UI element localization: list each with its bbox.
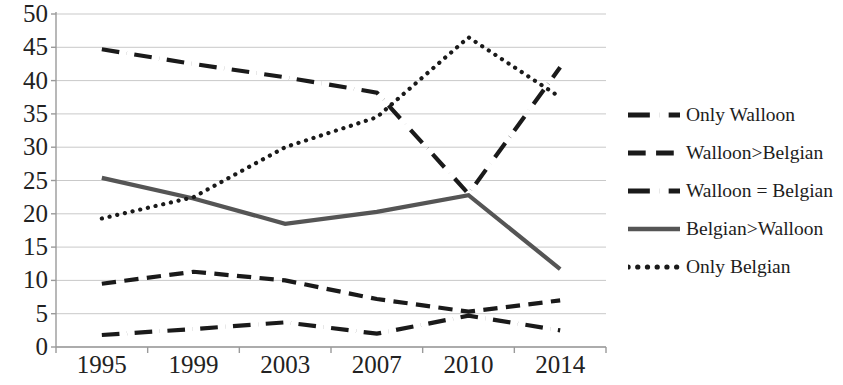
- legend-item[interactable]: Only Walloon: [628, 96, 843, 134]
- legend-line-sample-icon: [628, 184, 680, 198]
- legend-line-sample-icon: [628, 146, 680, 160]
- gridlines: [56, 14, 606, 347]
- x-axis-tick-label: 1995: [52, 352, 152, 377]
- chart-legend: Only WalloonWalloon>BelgianWalloon = Bel…: [628, 96, 843, 286]
- legend-item-label: Only Belgian: [686, 257, 791, 277]
- legend-line-sample-icon: [628, 260, 680, 274]
- legend-item[interactable]: Walloon = Belgian: [628, 172, 843, 210]
- axis-lines: [51, 12, 606, 347]
- legend-item-label: Belgian>Walloon: [686, 219, 823, 239]
- x-axis-tick-label: 2010: [419, 352, 519, 377]
- x-axis-tick-label: 2003: [235, 352, 335, 377]
- series-line-1: [102, 272, 560, 312]
- legend-item[interactable]: Only Belgian: [628, 248, 843, 286]
- line-chart: 50454035302520151050 1995199920032007201…: [0, 0, 843, 385]
- legend-line-sample-icon: [628, 222, 680, 236]
- legend-item-label: Walloon>Belgian: [686, 143, 823, 163]
- legend-line-sample-icon: [628, 108, 680, 122]
- x-axis-tick-label: 2014: [510, 352, 610, 377]
- series-lines: [102, 37, 560, 335]
- series-line-0: [102, 49, 560, 194]
- legend-item[interactable]: Walloon>Belgian: [628, 134, 843, 172]
- legend-item[interactable]: Belgian>Walloon: [628, 210, 843, 248]
- legend-item-label: Walloon = Belgian: [686, 181, 833, 201]
- series-line-3: [102, 178, 560, 269]
- x-axis-tick-label: 2007: [327, 352, 427, 377]
- series-line-2: [102, 316, 560, 335]
- x-axis-tick-label: 1999: [144, 352, 244, 377]
- legend-item-label: Only Walloon: [686, 105, 795, 125]
